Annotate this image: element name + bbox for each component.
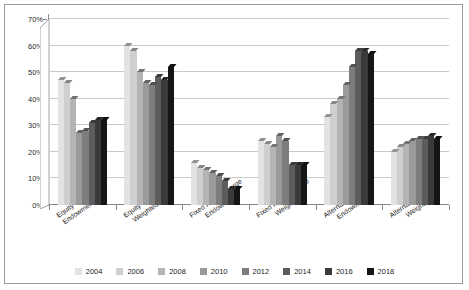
bar[interactable] [422, 139, 428, 205]
bar[interactable] [161, 80, 167, 205]
bar[interactable] [124, 46, 130, 205]
bar[interactable] [409, 141, 415, 205]
legend-item[interactable]: 2008 [158, 267, 186, 276]
bar[interactable] [191, 163, 197, 206]
bar-top-cap [216, 173, 225, 176]
bar[interactable] [149, 85, 155, 205]
bar[interactable] [197, 168, 203, 205]
bar[interactable] [324, 117, 330, 205]
legend-swatch [75, 268, 82, 275]
bar[interactable] [143, 83, 149, 205]
legend-item[interactable]: 2016 [325, 267, 353, 276]
bar-top-cap [191, 160, 200, 163]
bar-group [324, 19, 374, 205]
legend-swatch [158, 268, 165, 275]
bar[interactable] [209, 173, 215, 205]
bar[interactable] [368, 54, 374, 205]
bar[interactable] [264, 144, 270, 205]
legend-label: 2006 [127, 267, 144, 276]
bar-face [355, 51, 361, 205]
legend-item[interactable]: 2014 [283, 267, 311, 276]
x-tick-mark [316, 205, 317, 210]
bar-face [234, 189, 240, 205]
legend-item[interactable]: 2010 [200, 267, 228, 276]
bar[interactable] [282, 141, 288, 205]
bar-face [434, 139, 440, 205]
bar[interactable] [295, 165, 301, 205]
bar[interactable] [101, 120, 107, 205]
bar-face [258, 141, 264, 205]
bar[interactable] [397, 147, 403, 205]
bar-face [361, 51, 367, 205]
legend-swatch [200, 268, 207, 275]
bar[interactable] [137, 72, 143, 205]
bar[interactable] [361, 51, 367, 205]
bar[interactable] [343, 85, 349, 205]
bar[interactable] [222, 181, 228, 205]
bar-face [295, 165, 301, 205]
bar[interactable] [234, 189, 240, 205]
legend-item[interactable]: 2018 [367, 267, 395, 276]
bar[interactable] [330, 104, 336, 205]
bar[interactable] [216, 176, 222, 205]
bar[interactable] [203, 170, 209, 205]
bar-face [409, 141, 415, 205]
bar[interactable] [301, 165, 307, 205]
bar[interactable] [64, 83, 70, 205]
plot-area [49, 19, 449, 205]
bar-group [191, 19, 241, 205]
bar[interactable] [95, 120, 101, 205]
legend-item[interactable]: 2004 [75, 267, 103, 276]
gridline [49, 71, 449, 72]
bar[interactable] [70, 99, 76, 205]
legend-swatch [116, 268, 123, 275]
bar[interactable] [89, 123, 95, 205]
bar[interactable] [355, 51, 361, 205]
bar-face [168, 67, 174, 205]
bar-face [137, 72, 143, 205]
bar[interactable] [82, 131, 88, 205]
bar[interactable] [76, 133, 82, 205]
gridline [49, 177, 449, 178]
bar-face [301, 165, 307, 205]
legend-item[interactable]: 2012 [242, 267, 270, 276]
bar-face [349, 67, 355, 205]
x-tick-mark [182, 205, 183, 210]
bar-face [124, 46, 130, 205]
bar[interactable] [403, 144, 409, 205]
bar-face [203, 170, 209, 205]
bar[interactable] [434, 139, 440, 205]
bar-group [58, 19, 108, 205]
bar[interactable] [349, 67, 355, 205]
bar[interactable] [168, 67, 174, 205]
bar[interactable] [258, 141, 264, 205]
bar[interactable] [228, 189, 234, 205]
y-axis-labels: 0%10%20%30%40%50%60%70% [13, 19, 43, 205]
bar[interactable] [416, 139, 422, 205]
bar[interactable] [337, 99, 343, 205]
bar-top-cap [130, 48, 139, 51]
bar-face [397, 147, 403, 205]
bar[interactable] [428, 136, 434, 205]
bar-face [216, 176, 222, 205]
bar-face [422, 139, 428, 205]
gridline [49, 45, 449, 46]
bar-face [64, 83, 70, 205]
legend-item[interactable]: 2006 [116, 267, 144, 276]
legend-label: 2016 [336, 267, 353, 276]
bar-face [228, 189, 234, 205]
bar[interactable] [155, 77, 161, 205]
bar-group [391, 19, 441, 205]
bar-top-cap [64, 80, 73, 83]
gridline [49, 98, 449, 99]
bar[interactable] [270, 147, 276, 205]
bar[interactable] [58, 80, 64, 205]
bar[interactable] [130, 51, 136, 205]
bar[interactable] [276, 136, 282, 205]
legend-label: 2014 [294, 267, 311, 276]
x-tick-mark [382, 205, 383, 210]
bar-face [428, 136, 434, 205]
bar-top-cap [137, 69, 146, 72]
bar[interactable] [391, 152, 397, 205]
bar[interactable] [289, 165, 295, 205]
